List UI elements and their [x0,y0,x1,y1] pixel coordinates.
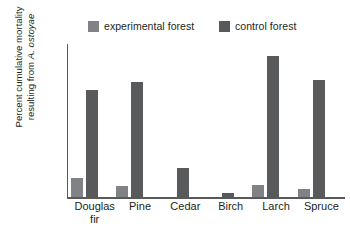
bar-experimental [298,189,310,197]
bar-group [68,44,113,197]
legend-label-control-forest: control forest [235,21,296,32]
bar-group [249,44,294,197]
bar-control [267,56,279,197]
bar-experimental [252,185,264,197]
y-axis-title-line-1: Percent cumulative mortality [13,0,25,141]
bar-experimental [71,178,83,197]
y-axis-title-species-name: A. ostoyae [25,14,36,60]
y-axis-title-line-2-text: resulting from [25,59,36,120]
x-tick-label-line-1: Spruce [304,200,339,212]
x-tick-label-line-2: fir [58,213,132,226]
bar-experimental [116,186,128,197]
bar-group [159,44,204,197]
bar-control [131,82,143,197]
bar-chart-figure: experimental forest control forest Perce… [0,0,350,242]
legend-swatch-experimental-forest [88,21,99,32]
bar-group [204,44,249,197]
bar-series-container [68,44,340,197]
bar-control [177,168,189,197]
plot-area: 051015202530 DouglasfirPineCedarBirchLar… [68,44,340,197]
y-axis-title: Percent cumulative mortality resulting f… [13,0,39,141]
y-axis-title-line-2: resulting from A. ostoyae [25,0,37,141]
legend-entry-control-forest: control forest [219,18,296,34]
bar-control [222,193,234,197]
x-tick-label: Spruce [284,200,350,213]
bar-group [113,44,158,197]
chart-legend: experimental forest control forest [88,18,336,34]
bar-control [86,90,98,197]
legend-swatch-control-forest [219,21,230,32]
legend-label-experimental-forest: experimental forest [104,21,194,32]
x-axis-line [67,197,345,199]
bar-control [313,80,325,197]
legend-entry-experimental-forest: experimental forest [88,18,194,34]
bar-group [295,44,340,197]
